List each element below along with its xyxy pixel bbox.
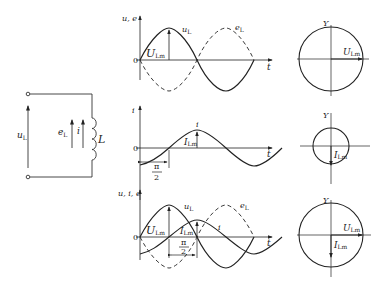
p3-u-label: ULm: [343, 223, 361, 233]
g2-x-label: t: [267, 149, 271, 159]
p1-axis-label: Y: [323, 19, 329, 28]
inductor-ac-diagram: uL eL i L u, e t 0 uL eL ULm i t 0 i ILm…: [0, 0, 384, 291]
e-curve: [140, 28, 254, 91]
p1-u-label: ULm: [343, 47, 361, 57]
circuit-u-label: uL: [17, 130, 27, 141]
g3-u-amp-label: ULm: [146, 224, 165, 237]
g1-u-label: uL: [182, 25, 191, 35]
g1-e-label: eL: [235, 23, 244, 33]
g1-y-label: u, e: [122, 14, 137, 23]
phasor-diagram-1: [297, 25, 369, 96]
p3-i-label: ILm: [333, 240, 348, 250]
p3-axis-label: Y: [323, 196, 329, 205]
p2-axis-label: Y: [323, 111, 329, 120]
g2-amp-label: ILm: [183, 137, 198, 147]
g2-y-label: i: [132, 106, 135, 115]
g3-x-label: t: [267, 238, 271, 248]
phasor-diagram-2: [300, 113, 370, 184]
terminal-top: [26, 92, 30, 96]
graph-current: [136, 106, 282, 200]
circuit-i-label: i: [77, 126, 80, 136]
g3-y-label: u, i, e: [118, 189, 141, 198]
terminal-bottom: [26, 175, 30, 179]
g3-e-label: eL: [240, 201, 249, 211]
circuit-inductor-label: L: [97, 133, 105, 146]
g1-amp-label: ULm: [146, 47, 165, 60]
g3-phase-num: π: [181, 238, 186, 247]
g3-origin: 0: [133, 233, 138, 242]
g2-i-label: i: [196, 120, 199, 129]
g3-i-label: i: [218, 223, 221, 232]
g2-phase-num: π: [154, 162, 159, 171]
g3-phase-den: 2: [181, 247, 186, 256]
g3-u-label: uL: [184, 202, 193, 212]
g2-phase-den: 2: [154, 173, 159, 182]
circuit-e-label: eL: [58, 127, 67, 138]
p2-i-label: ILm: [333, 150, 348, 160]
g2-origin: 0: [133, 144, 138, 153]
g1-x-label: t: [267, 62, 271, 72]
g1-origin: 0: [133, 56, 138, 65]
inductor-coil: [92, 118, 96, 160]
phasor-diagram-3: [297, 200, 371, 277]
